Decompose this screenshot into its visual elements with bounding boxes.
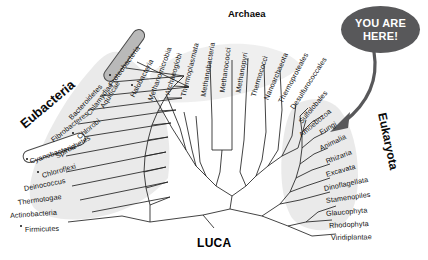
callout-line-2: HERE! bbox=[363, 30, 398, 42]
taxon-label-firmicutes: Firmicutes bbox=[25, 224, 59, 234]
you-are-here-text: YOU ARE HERE! bbox=[355, 17, 406, 42]
callout-line-1: YOU ARE bbox=[355, 17, 406, 29]
root-label-luca: LUCA bbox=[197, 236, 232, 250]
you-are-here-callout: YOU ARE HERE! bbox=[341, 6, 420, 53]
domain-heading-archaea: Archaea bbox=[228, 8, 266, 19]
tree-of-life-figure: Eubacteria Archaea Eukaryota LUCA Proteo… bbox=[0, 0, 428, 260]
taxon-label-viridiplantae: Viridiplantae bbox=[331, 232, 372, 242]
